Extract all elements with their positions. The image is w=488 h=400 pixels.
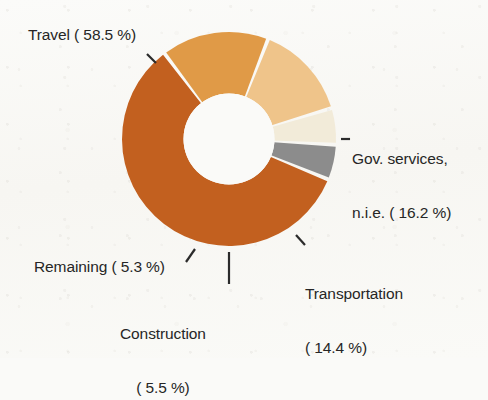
slice-label-transportation-line2: ( 14.4 %) bbox=[305, 339, 403, 357]
slice-label-construction-line1: Construction bbox=[120, 325, 206, 343]
donut-hole bbox=[184, 94, 275, 185]
slice-label-gov-services-line2: n.i.e. ( 16.2 %) bbox=[352, 204, 451, 222]
slice-label-transportation-line1: Transportation bbox=[305, 285, 403, 303]
slice-label-transportation: Transportation ( 14.4 %) bbox=[305, 248, 403, 394]
leader-line-travel bbox=[147, 54, 156, 63]
slice-label-remaining: Remaining ( 5.3 %) bbox=[34, 258, 165, 276]
leader-line-remaining bbox=[186, 249, 195, 262]
slice-label-construction: Construction ( 5.5 %) bbox=[120, 288, 206, 400]
slice-label-gov-services: Gov. services, n.i.e. ( 16.2 %) bbox=[352, 113, 451, 259]
leader-line-transportation bbox=[296, 235, 305, 245]
slice-label-construction-line2: ( 5.5 %) bbox=[120, 379, 206, 397]
slice-label-travel: Travel ( 58.5 %) bbox=[28, 26, 136, 44]
slice-label-gov-services-line1: Gov. services, bbox=[352, 150, 451, 168]
